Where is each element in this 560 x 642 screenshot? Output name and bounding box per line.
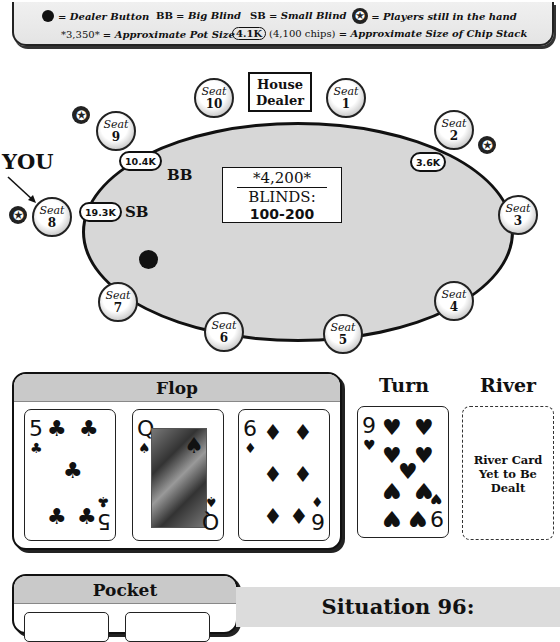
big-blind-tag: BB xyxy=(167,166,192,184)
heart-icon: ♥ xyxy=(382,479,402,501)
flop-card-2: Q ♠ ♠ ♠ Q xyxy=(132,409,224,541)
seat-5[interactable]: Seat5 xyxy=(323,314,363,354)
legend-big-blind: BB = Big Blind xyxy=(156,10,241,21)
situation-title: Situation 96: xyxy=(236,587,560,627)
flop-card-3: 6 ♦ ♦ ♦ ♦ ♦ ♦ ♦ ♦ 6 xyxy=(238,409,330,541)
turn-card: 9 ♥ ♥ ♥ ♥ ♥ ♥ ♥ ♥ ♥ ♥ ♥ 9 xyxy=(357,406,449,538)
turn-title: Turn xyxy=(358,374,450,396)
river-card-placeholder: River Card Yet to Be Dealt xyxy=(462,406,554,540)
legend-players-in-hand: ✪ = Players still in the hand xyxy=(352,8,517,24)
seat-3[interactable]: Seat3 xyxy=(498,195,538,235)
seat-10[interactable]: Seat10 xyxy=(194,78,234,118)
seat-9[interactable]: Seat9 xyxy=(96,111,136,151)
chip-stack-seat-9: 10.4K xyxy=(119,151,162,171)
you-arrow-icon xyxy=(6,175,40,207)
dealer-button xyxy=(139,250,158,269)
seat-6[interactable]: Seat6 xyxy=(204,312,244,352)
star-icon: ✪ xyxy=(352,8,368,24)
legend-chip-stack: 4.1K (4,100 chips) = Approximate Size of… xyxy=(232,27,527,40)
chip-stack-example: 4.1K xyxy=(232,27,266,40)
queen-face-image: ♠ xyxy=(151,428,207,528)
legend-panel: = Dealer Button BB = Big Blind SB = Smal… xyxy=(12,2,554,46)
house-dealer-label: House Dealer xyxy=(248,72,312,112)
diamond-icon: ♦ xyxy=(293,422,313,444)
star-icon-seat-2: ✪ xyxy=(478,136,496,154)
seat-1[interactable]: Seat1 xyxy=(326,78,366,118)
diamond-icon: ♦ xyxy=(263,506,283,528)
chip-stack-seat-2: 3.6K xyxy=(410,152,446,172)
pocket-title: Pocket xyxy=(14,576,236,604)
chip-stack-seat-8: 19.3K xyxy=(79,202,122,222)
small-blind-tag: SB xyxy=(125,203,149,221)
legend-dealer-button: = Dealer Button xyxy=(42,10,149,22)
heart-icon: ♥ xyxy=(408,507,428,529)
seat-4[interactable]: Seat4 xyxy=(434,281,474,321)
spade-icon: ♠ xyxy=(184,433,204,458)
club-icon: ♣ xyxy=(47,506,67,528)
river-title: River xyxy=(462,374,554,396)
star-icon-seat-9: ✪ xyxy=(72,106,90,124)
legend-small-blind: SB = Small Blind xyxy=(250,10,346,21)
club-icon: ♣ xyxy=(63,460,83,482)
heart-icon: ♥ xyxy=(414,417,434,439)
star-icon-seat-8: ✪ xyxy=(9,206,27,224)
flop-title: Flop xyxy=(14,374,340,402)
legend-pot-size: *3,350* = Approximate Pot Size xyxy=(61,29,235,40)
pocket-card-1 xyxy=(24,612,109,642)
diamond-icon: ♦ xyxy=(289,506,309,528)
heart-icon: ♥ xyxy=(382,507,402,529)
club-icon: ♣ xyxy=(79,418,99,440)
heart-icon: ♥ xyxy=(382,417,402,439)
seat-2[interactable]: Seat2 xyxy=(434,110,474,150)
club-icon: ♣ xyxy=(47,418,67,440)
pocket-card-2 xyxy=(125,612,210,642)
dealer-button-icon xyxy=(42,10,54,22)
diamond-icon: ♦ xyxy=(263,464,283,486)
blinds-value: 100-200 xyxy=(223,206,341,222)
diamond-icon: ♦ xyxy=(293,464,313,486)
diamond-icon: ♦ xyxy=(263,422,283,444)
you-label: YOU xyxy=(2,149,54,174)
flop-card-1: 5 ♣ ♣ ♣ ♣ ♣ ♣ ♣ 5 xyxy=(24,409,116,541)
pot-and-blinds-box: *4,200* BLINDS: 100-200 xyxy=(222,167,342,223)
blinds-label: BLINDS: xyxy=(223,188,341,206)
seat-7[interactable]: Seat7 xyxy=(98,282,138,322)
pot-size: *4,200* xyxy=(237,170,327,188)
club-icon: ♣ xyxy=(77,506,97,528)
